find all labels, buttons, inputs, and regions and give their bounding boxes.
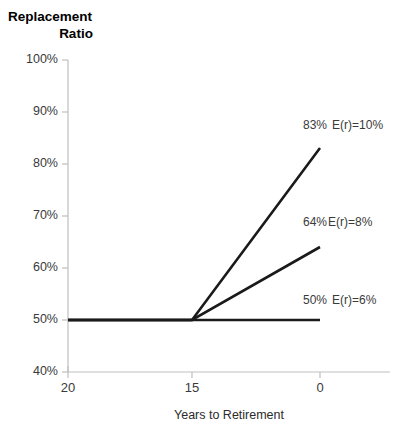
x-tick-label-20: 20 xyxy=(48,381,88,395)
series-annotation-er10: 83%E(r)=10% xyxy=(303,118,383,132)
series-annotation-er6-value: 50% xyxy=(303,293,327,307)
y-axis-ticks xyxy=(62,60,68,372)
y-tick-label-100: 100% xyxy=(8,53,58,66)
series-line-er10 xyxy=(68,148,320,320)
series-annotation-er8-value: 64% xyxy=(303,215,327,229)
x-tick-label-0: 0 xyxy=(300,381,340,395)
series-annotation-er6-label: E(r)=6% xyxy=(332,293,376,307)
series-line-er8 xyxy=(68,247,320,320)
y-tick-label-80: 80% xyxy=(8,157,58,170)
y-tick-label-50: 50% xyxy=(8,313,58,326)
series-annotation-er8: 64%E(r)=8% xyxy=(303,215,372,229)
replacement-ratio-chart: Replacement Ratio 100% xyxy=(0,0,406,441)
y-tick-label-60: 60% xyxy=(8,261,58,274)
y-tick-label-90: 90% xyxy=(8,105,58,118)
series-annotation-er10-label: E(r)=10% xyxy=(332,118,383,132)
y-tick-label-40: 40% xyxy=(8,365,58,378)
series-annotation-er8-label: E(r)=8% xyxy=(328,215,372,229)
x-tick-label-15: 15 xyxy=(172,381,212,395)
y-tick-label-70: 70% xyxy=(8,209,58,222)
series-annotation-er6: 50%E(r)=6% xyxy=(303,293,376,307)
x-axis-title: Years to Retirement xyxy=(68,408,390,422)
series-annotation-er10-value: 83% xyxy=(303,118,327,132)
